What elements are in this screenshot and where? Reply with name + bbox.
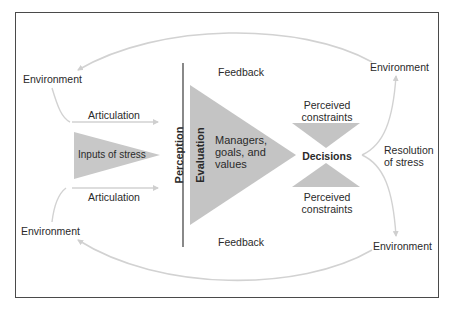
inputs-of-stress-label: Inputs of stress bbox=[78, 149, 146, 161]
constraint-triangle-top bbox=[292, 123, 360, 148]
perceived-constraints-bottom-label: Perceived constraints bbox=[296, 191, 358, 215]
feedback-label-bottom: Feedback bbox=[218, 236, 264, 248]
env-to-articulation-bottom bbox=[52, 188, 66, 222]
resolution-line-2: of stress bbox=[384, 156, 434, 168]
perceived-bottom-line-1: Perceived bbox=[296, 191, 358, 203]
evaluation-label: Evaluation bbox=[194, 120, 206, 190]
resolution-line-1: Resolution bbox=[384, 144, 434, 156]
articulation-label-bottom: Articulation bbox=[88, 191, 140, 203]
environment-label-top-right: Environment bbox=[370, 61, 429, 73]
articulation-label-top: Articulation bbox=[88, 109, 140, 121]
perceived-constraints-top-label: Perceived constraints bbox=[296, 99, 358, 123]
managers-goals-values-label: Managers, goals, and values bbox=[215, 134, 267, 170]
managers-line-3: values bbox=[215, 158, 267, 170]
managers-line-2: goals, and bbox=[215, 146, 267, 158]
environment-label-bottom-left: Environment bbox=[21, 225, 80, 237]
constraint-triangle-bottom bbox=[292, 163, 360, 187]
environment-label-bottom-right: Environment bbox=[373, 240, 432, 252]
decisions-label: Decisions bbox=[296, 150, 358, 162]
managers-line-1: Managers, bbox=[215, 134, 267, 146]
feedback-label-top: Feedback bbox=[218, 66, 264, 78]
perceived-bottom-line-2: constraints bbox=[296, 203, 358, 215]
perception-label: Perception bbox=[173, 120, 185, 190]
feedback-arc-top bbox=[78, 33, 372, 70]
resolution-of-stress-label: Resolution of stress bbox=[384, 144, 434, 168]
perceived-top-line-2: constraints bbox=[296, 111, 358, 123]
perceived-top-line-1: Perceived bbox=[296, 99, 358, 111]
env-to-articulation-top bbox=[52, 88, 70, 122]
environment-label-top-left: Environment bbox=[23, 73, 82, 85]
